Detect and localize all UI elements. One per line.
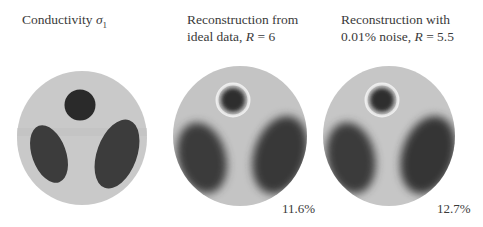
variable-r: R <box>246 29 254 44</box>
caption-line-2: 0.01% noise, R = 5.5 <box>341 28 454 45</box>
conductivity-phantom-image <box>14 68 150 208</box>
caption-prefix: ideal data, <box>187 29 246 44</box>
relative-error-label: 11.6% <box>282 201 315 217</box>
panel-3-caption: Reconstruction with 0.01% noise, R = 5.5 <box>341 11 454 45</box>
caption-prefix: 0.01% noise, <box>341 29 415 44</box>
panel-2-caption: Reconstruction from ideal data, R = 6 <box>187 11 298 45</box>
subscript: 1 <box>103 20 108 30</box>
sigma-symbol: σ <box>96 12 103 27</box>
caption-eq: = 6 <box>254 29 275 44</box>
caption-line-1: Reconstruction with <box>341 11 454 28</box>
noisy-reconstruction-image <box>321 63 461 209</box>
ideal-reconstruction-image <box>170 63 310 209</box>
caption-eq: = 5.5 <box>423 29 454 44</box>
relative-error-label: 12.7% <box>437 201 471 217</box>
panel-1-caption: Conductivity σ1 <box>22 11 107 34</box>
caption-line-1: Reconstruction from <box>187 11 298 28</box>
caption-line-2: ideal data, R = 6 <box>187 28 298 45</box>
variable-r: R <box>415 29 423 44</box>
caption-text: Conductivity <box>22 12 96 27</box>
